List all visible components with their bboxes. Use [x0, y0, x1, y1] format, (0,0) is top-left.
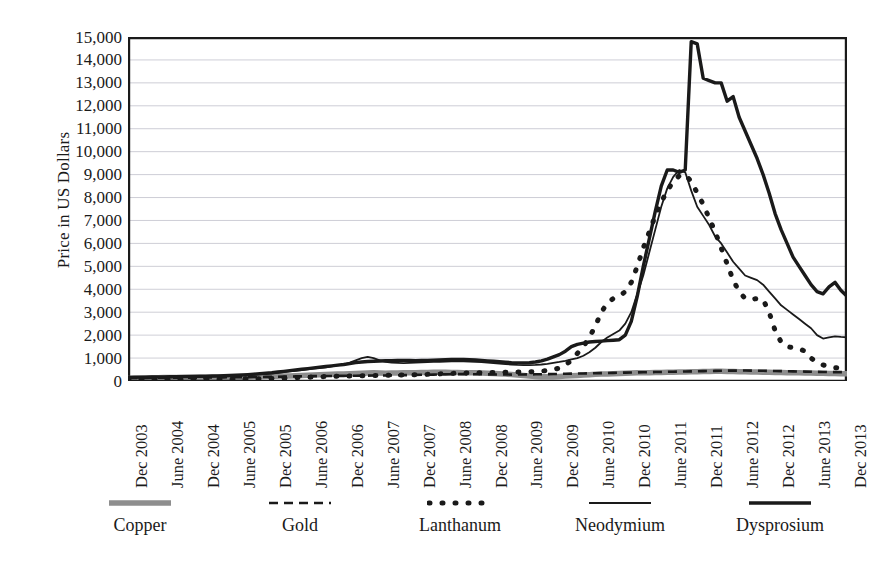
y-tick-label: 3,000 — [84, 304, 122, 321]
x-tick-label: Dec 2005 — [278, 384, 294, 488]
y-tick-label: 5,000 — [84, 258, 122, 275]
plot-area — [128, 37, 847, 381]
x-tick-label: June 2012 — [745, 384, 761, 488]
legend-swatch-lanthanum-icon — [427, 496, 493, 510]
y-axis-tick-labels: 01,0002,0003,0004,0005,0006,0007,0008,00… — [0, 0, 122, 400]
x-tick-label: Dec 2009 — [565, 384, 581, 488]
x-tick-label: Dec 2010 — [637, 384, 653, 488]
legend-label: Neodymium — [575, 515, 665, 536]
x-tick-label: June 2004 — [170, 384, 186, 488]
legend-label: Lanthanum — [419, 515, 501, 536]
y-tick-label: 14,000 — [75, 51, 122, 68]
legend-item-dysprosium[interactable]: Dysprosium — [700, 496, 860, 536]
y-tick-label: 11,000 — [76, 120, 122, 137]
legend-swatch-neodymium-icon — [587, 496, 653, 510]
y-tick-label: 4,000 — [84, 281, 122, 298]
x-tick-label: June 2007 — [386, 384, 402, 488]
chart-legend: CopperGoldLanthanumNeodymiumDysprosium — [60, 496, 860, 558]
legend-label: Dysprosium — [736, 515, 824, 536]
series-line-dysprosium — [128, 42, 847, 378]
x-tick-label: June 2008 — [458, 384, 474, 488]
legend-item-copper[interactable]: Copper — [60, 496, 220, 536]
plot-svg — [128, 37, 847, 381]
series-line-neodymium — [128, 170, 847, 378]
x-tick-label: June 2009 — [529, 384, 545, 488]
series-line-lanthanum — [128, 175, 847, 380]
legend-swatch-dysprosium-icon — [747, 496, 813, 510]
legend-item-neodymium[interactable]: Neodymium — [540, 496, 700, 536]
x-tick-label: Dec 2007 — [422, 384, 438, 488]
x-tick-label: June 2005 — [242, 384, 258, 488]
x-tick-label: June 2006 — [314, 384, 330, 488]
x-axis-tick-labels: Dec 2003June 2004Dec 2004June 2005Dec 20… — [128, 388, 847, 492]
legend-item-gold[interactable]: Gold — [220, 496, 380, 536]
y-tick-label: 1,000 — [84, 350, 122, 367]
x-tick-label: Dec 2003 — [134, 384, 150, 488]
x-tick-label: June 2011 — [673, 384, 689, 488]
x-tick-label: June 2013 — [817, 384, 833, 488]
y-tick-label: 13,000 — [75, 74, 122, 91]
x-tick-label: Dec 2004 — [206, 384, 222, 488]
price-chart-figure: Price in US Dollars 01,0002,0003,0004,00… — [0, 0, 875, 569]
x-tick-label: Dec 2006 — [350, 384, 366, 488]
legend-label: Copper — [114, 515, 167, 536]
y-tick-label: 6,000 — [84, 235, 122, 252]
y-tick-label: 8,000 — [84, 189, 122, 206]
y-tick-label: 2,000 — [84, 327, 122, 344]
y-tick-label: 9,000 — [84, 166, 122, 183]
x-tick-label: June 2010 — [601, 384, 617, 488]
x-tick-label: Dec 2011 — [709, 384, 725, 488]
legend-swatch-copper-icon — [107, 496, 173, 510]
legend-item-lanthanum[interactable]: Lanthanum — [380, 496, 540, 536]
y-tick-label: 7,000 — [84, 212, 122, 229]
y-tick-label: 12,000 — [75, 97, 122, 114]
y-tick-label: 0 — [114, 373, 123, 390]
legend-swatch-gold-icon — [267, 496, 333, 510]
x-tick-label: Dec 2012 — [781, 384, 797, 488]
x-tick-label: Dec 2013 — [853, 384, 869, 488]
y-tick-label: 15,000 — [75, 29, 122, 46]
legend-label: Gold — [282, 515, 318, 536]
x-tick-label: Dec 2008 — [494, 384, 510, 488]
y-tick-label: 10,000 — [75, 143, 122, 160]
